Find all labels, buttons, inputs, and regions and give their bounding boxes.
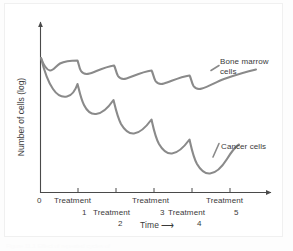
x-tick-label-treatment-5-number: 5 bbox=[234, 208, 239, 218]
leader-line-cancer bbox=[213, 144, 219, 158]
x-tick-label-treatment-2-word: Treatment bbox=[93, 208, 130, 218]
leader-line-bone-marrow bbox=[211, 66, 219, 71]
x-axis-ticks bbox=[78, 188, 230, 193]
series-label-cancer: Cancer cells bbox=[221, 142, 266, 152]
time-arrow-icon: ⟶ bbox=[161, 220, 174, 230]
x-axis-label-text: Time bbox=[140, 220, 159, 230]
x-axis-origin-label: 0 bbox=[37, 196, 42, 206]
x-tick-label-treatment-1-word: Treatment bbox=[54, 196, 91, 206]
x-tick-label-treatment-3-word: Treatment bbox=[132, 196, 169, 206]
y-axis-label: Number of cells (log) bbox=[16, 57, 26, 177]
curve-cancer-cells bbox=[41, 58, 239, 174]
figure-caption-partial: Figure 11.1 Effect of repeated cycles of bbox=[6, 243, 286, 249]
x-tick-label-treatment-5-word: Treatment bbox=[206, 196, 243, 206]
x-tick-label-treatment-3-number: 3 bbox=[160, 208, 165, 218]
series-label-bone-marrow-line2: cells bbox=[220, 67, 237, 76]
series-label-bone-marrow-line1: Bone marrow bbox=[220, 57, 269, 66]
series-label-bone-marrow: Bone marrow cells bbox=[220, 57, 269, 77]
x-tick-label-treatment-4-number: 4 bbox=[197, 219, 202, 229]
x-tick-label-treatment-1-number: 1 bbox=[82, 208, 87, 218]
chart-plot-area bbox=[0, 0, 293, 251]
x-axis-label: Time ⟶ bbox=[140, 221, 175, 231]
figure-container: Number of cells (log) Bone marrow cells … bbox=[0, 0, 293, 251]
x-tick-label-treatment-4-word: Treatment bbox=[168, 208, 205, 218]
x-tick-label-treatment-2-number: 2 bbox=[118, 219, 123, 229]
